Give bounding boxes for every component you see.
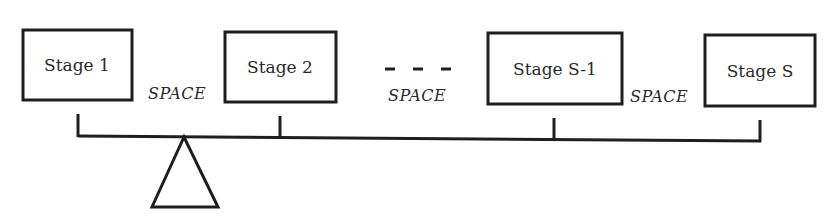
stage-1: Stage 1 [23,30,132,100]
balance-beam [78,114,761,142]
stage-s-minus-1-label: Stage S-1 [513,59,597,79]
stage-s: Stage S [705,35,815,106]
stage-2: Stage 2 [225,32,336,102]
space-label-1: SPACE [148,84,206,103]
space-label-3: SPACE [630,87,688,106]
space-label-2: SPACE [388,86,446,105]
beam-line [78,136,761,141]
fulcrum-triangle-icon [152,137,218,207]
stage-2-label: Stage 2 [247,57,313,77]
balance-diagram: Stage 1 Stage 2 Stage S-1 Stage S SPACE … [0,0,837,218]
stage-s-label: Stage S [727,61,794,81]
stage-1-label: Stage 1 [44,55,110,75]
stage-s-minus-1: Stage S-1 [488,33,622,104]
